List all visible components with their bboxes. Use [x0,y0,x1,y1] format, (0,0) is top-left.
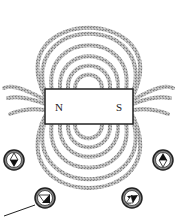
compass-bottom-right-icon [122,188,142,208]
pointer-arrow-icon [4,205,35,216]
bar-magnet: N S [45,89,133,124]
compass-left-icon [4,150,24,170]
compass-right-icon [153,150,173,170]
field-lines-bottom [38,116,140,188]
magnetic-field-diagram: N S [0,0,177,220]
north-pole-label: N [55,101,63,113]
south-pole-label: S [116,101,122,113]
compass-bottom-left-icon [35,188,55,208]
